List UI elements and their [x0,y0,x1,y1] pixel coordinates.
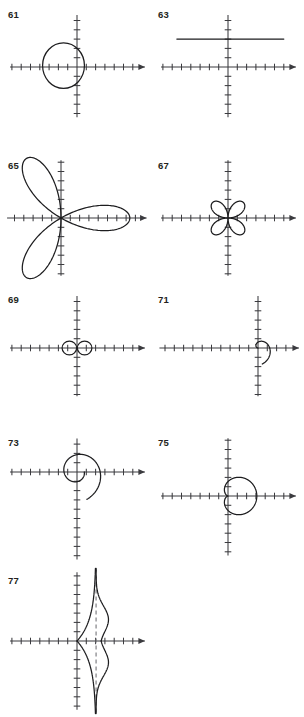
figure-67 [156,155,302,279]
polar-plot-71 [156,289,302,399]
x-axis-arrowhead [138,638,145,644]
x-axis-arrowhead [289,64,296,70]
x-axis-arrowhead [138,64,145,70]
curve-branch-inner [77,641,95,714]
polar-plot-67 [156,155,302,279]
figure-61 [6,6,152,120]
figure-77 [6,570,152,712]
axes-63 [161,15,296,117]
polar-plot-63 [156,6,302,120]
figure-65 [6,155,152,279]
axes-75 [161,438,296,555]
polar-plot-61 [6,6,152,120]
curve-logarithmic-spiral [64,454,101,499]
figure-69 [6,289,152,399]
figure-63 [156,6,302,120]
polar-plot-75 [156,432,302,564]
curve-branch-outer [96,568,108,641]
polar-plot-69 [6,289,152,399]
x-axis-arrowhead [138,345,145,351]
axes-73 [10,439,145,560]
axes-71 [159,296,298,396]
polar-plot-77 [6,570,152,712]
axes-65 [7,160,147,275]
x-axis-arrowhead [140,215,147,221]
x-axis-arrowhead [138,469,145,475]
x-axis-arrowhead [289,493,296,499]
polar-plot-73 [6,432,152,564]
figure-71 [156,289,302,399]
curve-branch-inner [77,568,95,641]
polar-plot-65 [6,155,152,279]
x-axis-arrowhead [292,345,299,351]
figure-73 [6,432,152,564]
axes-61 [10,15,145,117]
figure-75 [156,432,302,564]
curve-branch-outer [96,641,108,714]
x-axis-arrowhead [289,215,296,221]
figure-sheet: 616365676971737577 [0,0,304,717]
